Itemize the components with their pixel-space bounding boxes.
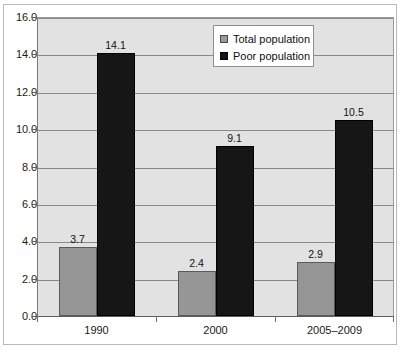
bar-chart-figure: 0.02.04.06.08.010.012.014.016.0 19902000… xyxy=(0,0,412,354)
legend-item-label: Poor population xyxy=(233,50,310,62)
bar-poor-population xyxy=(97,53,135,316)
x-axis-category-label: 2005–2009 xyxy=(307,324,362,336)
legend-item-label: Total population xyxy=(233,33,310,45)
gridline xyxy=(38,18,393,19)
y-axis-tick-mark xyxy=(32,167,37,168)
y-axis-tick-mark xyxy=(32,241,37,242)
x-axis-tick-mark xyxy=(37,316,38,322)
x-axis-tick-mark xyxy=(156,316,157,322)
bar-total-population xyxy=(297,262,335,316)
y-axis-tick-mark xyxy=(32,279,37,280)
y-axis-tick-mark xyxy=(32,92,37,93)
bar-value-label: 2.9 xyxy=(308,248,323,260)
x-axis-category-label: 1990 xyxy=(84,324,108,336)
y-axis-tick-mark xyxy=(32,17,37,18)
bar-value-label: 9.1 xyxy=(227,132,242,144)
legend-item: Total population xyxy=(220,30,313,47)
x-axis-category-label: 2000 xyxy=(203,324,227,336)
gridline xyxy=(38,93,393,94)
bar-value-label: 14.1 xyxy=(105,39,125,51)
bar-total-population xyxy=(178,271,216,316)
bar-poor-population xyxy=(216,146,254,316)
legend-swatch-poor-icon xyxy=(220,52,228,60)
legend-swatch-total-icon xyxy=(220,35,228,43)
chart-legend: Total populationPoor population xyxy=(213,25,314,67)
bar-value-label: 2.4 xyxy=(189,257,204,269)
x-axis-tick-mark xyxy=(393,316,394,322)
bar-total-population xyxy=(59,247,97,316)
bar-poor-population xyxy=(335,120,373,316)
gridline xyxy=(38,316,393,317)
y-axis: 0.02.04.06.08.010.012.014.016.0 xyxy=(0,17,37,316)
legend-item: Poor population xyxy=(220,47,313,64)
y-axis-tick-mark xyxy=(32,204,37,205)
x-axis-tick-mark xyxy=(275,316,276,322)
y-axis-tick-mark xyxy=(32,54,37,55)
bar-value-label: 10.5 xyxy=(343,106,363,118)
y-axis-tick-mark xyxy=(32,129,37,130)
bar-value-label: 3.7 xyxy=(70,233,85,245)
